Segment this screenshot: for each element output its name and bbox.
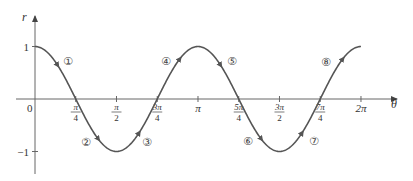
x-tick-label-denominator: 2 [114, 113, 119, 123]
segment-label: ⑤ [227, 55, 237, 68]
segment-label: ① [63, 55, 73, 68]
segment-label: ② [81, 136, 91, 149]
x-tick-label-denominator: 4 [155, 113, 160, 123]
x-axis-label: θ [391, 97, 397, 111]
segment-label: ④ [161, 55, 171, 68]
direction-arrow [179, 58, 180, 59]
segment-label: ⑦ [309, 135, 319, 148]
segment-label: ③ [142, 136, 152, 149]
y-tick-label: 1 [24, 41, 30, 53]
x-tick-label-denominator: 4 [73, 113, 78, 123]
x-tick-label: π [195, 102, 201, 114]
x-tick-label-numerator: 3π [274, 102, 285, 112]
direction-arrow [261, 138, 262, 139]
x-tick-label-denominator: 4 [318, 113, 323, 123]
x-tick-label-numerator: π [114, 102, 119, 112]
y-axis-label: r [22, 10, 27, 24]
polar-cartesian-graph: r θ 0 π4π23π4π5π43π27π42π1−1 ①②③④⑤⑥⑦⑧ [0, 0, 413, 181]
direction-arrow [342, 58, 343, 59]
direction-arrow [98, 138, 99, 139]
origin-label: 0 [27, 102, 33, 114]
x-tick-label-denominator: 4 [236, 113, 241, 123]
x-tick-label: 2π [355, 102, 367, 114]
x-tick-label-denominator: 2 [277, 113, 282, 123]
y-tick-label: −1 [17, 146, 29, 158]
segment-label: ⑥ [243, 135, 253, 148]
segment-label: ⑧ [321, 56, 331, 69]
